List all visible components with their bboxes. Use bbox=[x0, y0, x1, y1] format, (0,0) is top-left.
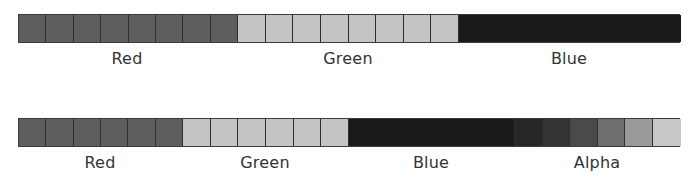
label-green-rgba: Green bbox=[240, 153, 289, 172]
blue-byte-cell bbox=[598, 15, 626, 42]
green-byte-cell bbox=[266, 119, 294, 146]
green-byte-cell bbox=[321, 119, 349, 146]
red-byte-cell bbox=[19, 15, 46, 42]
green-byte-cell bbox=[266, 15, 294, 42]
red-byte-cell bbox=[74, 15, 101, 42]
label-red-rgb: Red bbox=[112, 49, 143, 68]
red-byte-cell bbox=[101, 15, 128, 42]
segment-green bbox=[183, 119, 349, 146]
blue-byte-cell bbox=[626, 15, 654, 42]
red-byte-cell bbox=[46, 15, 73, 42]
label-blue-rgba: Blue bbox=[413, 153, 449, 172]
blue-byte-cell bbox=[459, 15, 487, 42]
green-byte-cell bbox=[183, 119, 211, 146]
alpha-byte-cell bbox=[543, 119, 571, 146]
alpha-byte-cell bbox=[570, 119, 598, 146]
label-blue-rgb: Blue bbox=[551, 49, 587, 68]
alpha-byte-cell bbox=[515, 119, 543, 146]
red-byte-cell bbox=[19, 119, 46, 146]
blue-byte-cell bbox=[404, 119, 432, 146]
segment-red bbox=[19, 119, 183, 146]
segment-blue bbox=[459, 15, 681, 42]
blue-byte-cell bbox=[515, 15, 543, 42]
blue-byte-cell bbox=[487, 119, 515, 146]
green-byte-cell bbox=[376, 15, 404, 42]
green-byte-cell bbox=[404, 15, 432, 42]
green-byte-cell bbox=[238, 119, 266, 146]
blue-byte-cell bbox=[487, 15, 515, 42]
rgb-byte-bar bbox=[18, 14, 680, 43]
red-byte-cell bbox=[211, 15, 238, 42]
red-byte-cell bbox=[156, 119, 183, 146]
blue-byte-cell bbox=[570, 15, 598, 42]
label-alpha-rgba: Alpha bbox=[574, 153, 621, 172]
green-byte-cell bbox=[431, 15, 459, 42]
blue-byte-cell bbox=[542, 15, 570, 42]
label-red-rgba: Red bbox=[85, 153, 116, 172]
alpha-byte-cell bbox=[625, 119, 653, 146]
blue-byte-cell bbox=[653, 15, 681, 42]
blue-byte-cell bbox=[349, 119, 377, 146]
blue-byte-cell bbox=[460, 119, 488, 146]
rgba-byte-bar bbox=[18, 118, 680, 147]
blue-byte-cell bbox=[432, 119, 460, 146]
green-byte-cell bbox=[293, 15, 321, 42]
green-byte-cell bbox=[294, 119, 322, 146]
alpha-byte-cell bbox=[598, 119, 626, 146]
label-green-rgb: Green bbox=[323, 49, 372, 68]
red-byte-cell bbox=[156, 15, 183, 42]
segment-blue bbox=[349, 119, 515, 146]
red-byte-cell bbox=[46, 119, 73, 146]
red-byte-cell bbox=[101, 119, 128, 146]
blue-byte-cell bbox=[377, 119, 405, 146]
segment-alpha bbox=[515, 119, 681, 146]
red-byte-cell bbox=[129, 15, 156, 42]
green-byte-cell bbox=[349, 15, 377, 42]
green-byte-cell bbox=[238, 15, 266, 42]
segment-green bbox=[238, 15, 459, 42]
green-byte-cell bbox=[321, 15, 349, 42]
red-byte-cell bbox=[183, 15, 210, 42]
alpha-byte-cell bbox=[653, 119, 681, 146]
red-byte-cell bbox=[74, 119, 101, 146]
segment-red bbox=[19, 15, 238, 42]
green-byte-cell bbox=[211, 119, 239, 146]
red-byte-cell bbox=[128, 119, 155, 146]
